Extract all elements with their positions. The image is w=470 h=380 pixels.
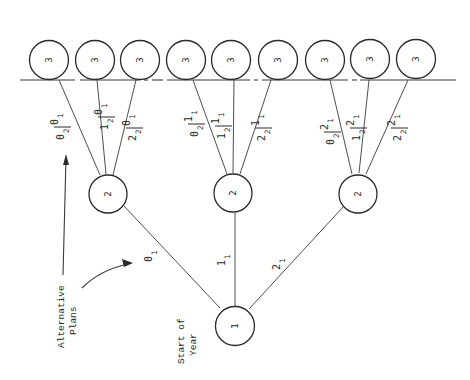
level2-nodes: 2 2 2 — [89, 174, 377, 213]
svg-text:2: 2 — [386, 120, 397, 126]
svg-text:1: 1 — [100, 103, 109, 108]
start-of-year-annotation: Start of Year — [176, 318, 199, 364]
svg-text:1: 1 — [56, 113, 65, 118]
svg-text:1: 1 — [190, 110, 199, 115]
node-label: 1 — [230, 323, 240, 328]
svg-text:1: 1 — [99, 124, 110, 130]
alternative-plans-caption-line1: Alternative — [56, 285, 67, 348]
node-n3i: 3 — [397, 40, 436, 79]
svg-text:1: 1 — [257, 114, 266, 119]
edge-label-2-1: 2 1 — [271, 258, 287, 270]
arrow-curve-icon — [122, 259, 133, 267]
node-n3g: 3 — [306, 41, 345, 80]
svg-text:0: 0 — [93, 109, 104, 115]
svg-text:0: 0 — [55, 134, 66, 140]
svg-text:2: 2 — [392, 135, 403, 141]
edge-label-n3g: 0 2 2 1 — [319, 118, 341, 145]
edge-label-1-1: 1 1 — [216, 254, 232, 266]
svg-text:1: 1 — [326, 118, 335, 123]
svg-text:1: 1 — [217, 112, 226, 117]
svg-text:2: 2 — [319, 124, 330, 130]
svg-text:1: 1 — [278, 258, 287, 263]
start-of-year-line1: Start of — [176, 318, 187, 364]
svg-text:0: 0 — [325, 139, 336, 145]
svg-text:0: 0 — [49, 119, 60, 125]
root-edges — [124, 206, 344, 309]
svg-text:1: 1 — [352, 114, 361, 119]
svg-text:0: 0 — [189, 131, 200, 137]
node-n3c: 3 — [121, 41, 160, 80]
svg-text:2: 2 — [332, 133, 341, 138]
svg-text:2: 2 — [196, 125, 205, 130]
svg-text:1: 1 — [250, 120, 261, 126]
edge-label-n3a: 0 2 0 1 — [49, 113, 71, 140]
svg-text:1: 1 — [150, 250, 159, 255]
node-n2a: 2 — [89, 175, 127, 213]
svg-text:2: 2 — [127, 135, 138, 141]
node-label: 2 — [353, 191, 363, 196]
svg-text:2: 2 — [358, 129, 367, 134]
edge-label-n3b: 1 2 0 1 — [93, 103, 115, 130]
edge-n2c-to-n3g — [330, 80, 352, 174]
edge-root-to-n2c — [249, 206, 344, 309]
svg-text:1: 1 — [183, 116, 194, 122]
edge-label-0-1: 0 1 — [143, 250, 159, 262]
edge-label-n3h: 1 2 2 1 — [345, 114, 367, 141]
arrow-up-icon — [63, 154, 69, 165]
node-label: 3 — [273, 57, 283, 62]
svg-text:1: 1 — [393, 114, 402, 119]
node-n3f: 3 — [259, 41, 298, 80]
node-n3h: 3 — [351, 40, 390, 79]
node-label: 3 — [320, 57, 330, 62]
svg-text:2: 2 — [345, 120, 356, 126]
svg-text:2: 2 — [399, 129, 408, 134]
svg-text:1: 1 — [210, 118, 221, 124]
alternative-plans-caption-line2: Plans — [68, 306, 79, 335]
node-label: 3 — [90, 57, 100, 62]
arrow-up-line — [63, 158, 66, 275]
node-label: 3 — [411, 56, 421, 61]
svg-text:1: 1 — [351, 135, 362, 141]
svg-text:2: 2 — [223, 127, 232, 132]
node-n3b: 3 — [76, 41, 115, 80]
svg-text:2: 2 — [263, 129, 272, 134]
edge-label-n3d: 0 2 1 1 — [183, 110, 205, 137]
svg-text:2: 2 — [134, 129, 143, 134]
edge-n2b-to-n3f — [240, 80, 271, 174]
node-label: 3 — [181, 57, 191, 62]
edge-n2c-to-n3i — [366, 80, 408, 174]
node-label: 3 — [44, 57, 54, 62]
start-of-year-line2: Year — [188, 333, 199, 356]
edge-root-to-n2a — [124, 206, 220, 308]
svg-text:1: 1 — [216, 260, 227, 266]
node-root: 1 — [216, 307, 255, 346]
svg-text:2: 2 — [256, 135, 267, 141]
svg-text:1: 1 — [223, 254, 232, 259]
node-label: 2 — [228, 190, 238, 195]
node-n3a: 3 — [30, 41, 69, 80]
svg-text:1: 1 — [128, 114, 137, 119]
root-edge-labels: 0 1 1 1 2 1 — [143, 250, 287, 270]
node-n3e: 3 — [212, 41, 251, 80]
edge-label-n3f: 2 2 1 1 — [250, 114, 272, 141]
node-label: 3 — [226, 57, 236, 62]
svg-text:0: 0 — [143, 256, 154, 262]
svg-text:2: 2 — [271, 264, 282, 270]
node-label: 3 — [365, 56, 375, 61]
edge-n2b-to-n3e — [233, 80, 234, 173]
node-n2b: 2 — [214, 174, 252, 212]
node-n3d: 3 — [167, 41, 206, 80]
edge-label-n3i: 2 2 2 1 — [386, 114, 408, 141]
node-label: 2 — [103, 191, 113, 196]
level3-nodes: 3 3 3 3 3 3 3 3 — [30, 40, 436, 80]
svg-text:2: 2 — [62, 128, 71, 133]
svg-text:1: 1 — [216, 133, 227, 139]
svg-text:0: 0 — [121, 120, 132, 126]
arrow-curve-line — [82, 264, 128, 288]
svg-text:2: 2 — [106, 118, 115, 123]
node-label: 3 — [135, 57, 145, 62]
node-n2c: 2 — [339, 175, 377, 213]
edge-n2c-to-n3h — [359, 80, 369, 173]
decision-tree-diagram: 3 3 3 3 3 3 3 3 — [0, 0, 470, 380]
